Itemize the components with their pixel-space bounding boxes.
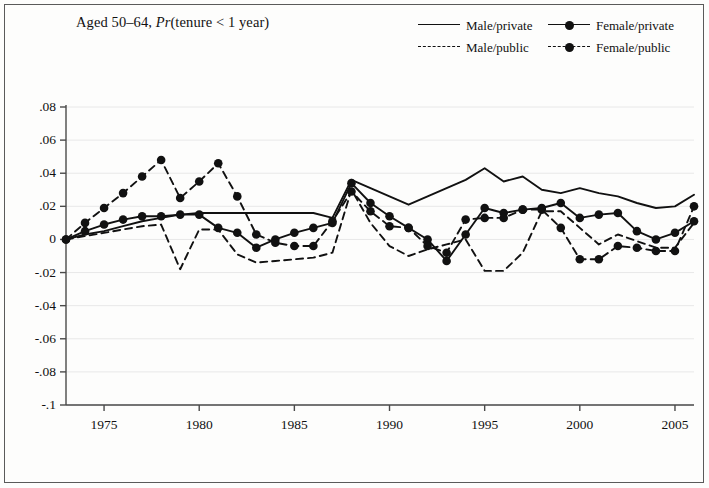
series-marker: [347, 179, 356, 188]
series-line-male-private: [66, 168, 694, 239]
series-marker: [385, 212, 394, 221]
series-marker: [652, 247, 661, 256]
y-axis-tick-label: .06: [8, 132, 56, 148]
series-marker: [214, 159, 223, 168]
series-marker: [233, 192, 242, 201]
y-axis-tick-label: .08: [8, 99, 56, 115]
series-marker: [537, 205, 546, 214]
series-marker: [499, 214, 508, 223]
series-marker: [138, 212, 147, 221]
series-marker: [328, 217, 337, 226]
series-marker: [81, 219, 90, 228]
series-marker: [290, 229, 299, 238]
series-marker: [252, 243, 261, 252]
series-marker: [100, 204, 109, 213]
series-marker: [461, 230, 470, 239]
series-marker: [595, 255, 604, 264]
series-marker: [633, 243, 642, 252]
series-marker: [671, 247, 680, 256]
series-marker: [404, 224, 413, 233]
series-marker: [62, 235, 71, 244]
series-marker: [290, 242, 299, 251]
series-marker: [385, 222, 394, 231]
series-marker: [614, 209, 623, 218]
series-marker: [271, 238, 280, 247]
y-axis-tick-label: -.04: [8, 298, 56, 314]
series-marker: [480, 214, 489, 223]
series-marker: [176, 210, 185, 219]
x-axis-tick-label: 1995: [471, 417, 498, 433]
y-axis-tick-label: -.06: [8, 331, 56, 347]
series-marker: [157, 212, 166, 221]
series-marker: [480, 204, 489, 213]
x-axis-tick-label: 2000: [566, 417, 593, 433]
series-marker: [309, 224, 318, 233]
y-axis-tick-label: .02: [8, 198, 56, 214]
series-marker: [252, 230, 261, 239]
series-marker: [442, 257, 451, 266]
series-marker: [614, 242, 623, 251]
series-marker: [195, 210, 204, 219]
series-marker: [690, 202, 699, 211]
x-axis-tick-label: 1980: [186, 417, 213, 433]
series-marker: [119, 215, 128, 224]
series-marker: [576, 214, 585, 223]
series-marker: [556, 224, 565, 233]
series-marker: [442, 248, 451, 257]
series-marker: [461, 215, 470, 224]
series-line-female-private: [66, 183, 694, 261]
figure-container: Aged 50–64, Pr(tenure < 1 year) Male/pri…: [0, 0, 709, 488]
series-marker: [652, 235, 661, 244]
x-axis-tick-label: 1975: [91, 417, 118, 433]
series-marker: [366, 199, 375, 208]
series-marker: [81, 227, 90, 236]
series-marker: [518, 205, 527, 214]
series-marker: [309, 242, 318, 251]
y-axis-tick-label: -.02: [8, 265, 56, 281]
series-marker: [556, 199, 565, 208]
series-marker: [157, 156, 166, 165]
series-marker: [671, 229, 680, 238]
line-chart-plot: [0, 0, 709, 488]
series-marker: [100, 220, 109, 229]
series-marker: [633, 227, 642, 236]
x-axis-tick-label: 1985: [281, 417, 308, 433]
series-marker: [576, 255, 585, 264]
x-axis-tick-label: 2005: [661, 417, 688, 433]
series-marker: [119, 189, 128, 198]
y-axis-tick-label: 0: [8, 231, 56, 247]
series-marker: [233, 229, 242, 238]
y-axis-tick-label: .04: [8, 165, 56, 181]
series-marker: [176, 194, 185, 203]
series-marker: [138, 172, 147, 181]
series-marker: [366, 207, 375, 216]
series-marker: [195, 177, 204, 186]
y-axis-tick-label: -.1: [8, 397, 56, 413]
series-marker: [347, 187, 356, 196]
series-marker: [690, 217, 699, 226]
y-axis-tick-label: -.08: [8, 364, 56, 380]
x-axis-tick-label: 1990: [376, 417, 403, 433]
series-marker: [423, 242, 432, 251]
series-marker: [595, 210, 604, 219]
